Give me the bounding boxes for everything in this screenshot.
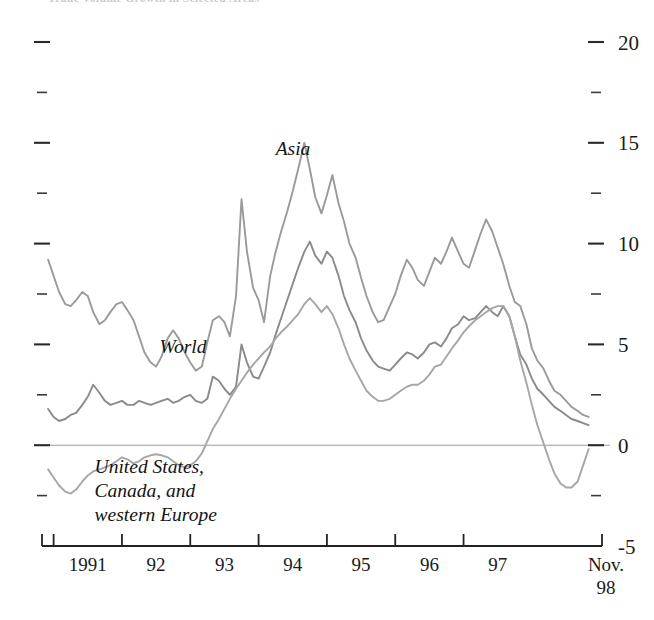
x-tick-label: 97 xyxy=(488,554,507,575)
x-tick-label: 94 xyxy=(283,554,303,575)
y-tick-label: 10 xyxy=(618,232,639,256)
line-chart: -505101520 1991929394959697Nov.98 AsiaWo… xyxy=(0,0,654,620)
series-label-asia: Asia xyxy=(274,138,311,159)
y-tick-label: 0 xyxy=(618,434,629,458)
x-tick-label: 1991 xyxy=(69,554,107,575)
y-tick-label: 15 xyxy=(618,131,639,155)
x-axis xyxy=(42,534,602,546)
right-axis-labels: -505101520 xyxy=(618,31,639,559)
series-line-world xyxy=(48,242,588,425)
x-tick-label-line2: 98 xyxy=(597,577,616,598)
series-group xyxy=(48,143,588,494)
y-tick-label: 20 xyxy=(618,31,639,55)
x-tick-label: 95 xyxy=(352,554,371,575)
right-axis-ticks xyxy=(588,42,604,496)
x-tick-label: 92 xyxy=(147,554,166,575)
x-tick-label: 93 xyxy=(215,554,234,575)
series-label-united-states: Canada, and xyxy=(95,480,196,501)
left-axis-ticks xyxy=(34,42,50,496)
series-label-united-states: western Europe xyxy=(95,504,218,525)
chart-root: Trade Volume Growth in Selected Areas -5… xyxy=(0,0,654,620)
x-tick-label: Nov. xyxy=(588,554,624,575)
series-annotations: AsiaWorldUnited States,Canada, andwester… xyxy=(95,138,311,526)
x-tick-label: 96 xyxy=(420,554,439,575)
x-axis-labels: 1991929394959697Nov.98 xyxy=(69,554,624,598)
series-label-united-states: United States, xyxy=(95,456,204,477)
series-line-asia xyxy=(48,143,588,417)
y-tick-label: 5 xyxy=(618,333,629,357)
series-label-world: World xyxy=(160,336,207,357)
